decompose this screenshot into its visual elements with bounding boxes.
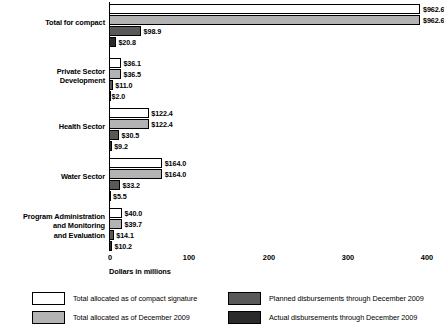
- group-label: Health Sector: [0, 122, 105, 131]
- x-tick-label: 300: [342, 253, 354, 262]
- bar-series-1: [109, 69, 121, 79]
- bar-value-label: $11.0: [115, 81, 132, 91]
- bar-series-2: [109, 80, 113, 90]
- group-label-line: Development: [60, 76, 105, 85]
- bar-value-label: $14.1: [116, 231, 134, 241]
- bar-value-label: $36.5: [124, 70, 142, 80]
- legend-swatch: [228, 311, 261, 324]
- bar-value-label: $40.0: [125, 209, 143, 219]
- bar-value-label: $122.4: [151, 120, 172, 130]
- bar-value-label: $962.6: [423, 16, 444, 26]
- x-tick-label: 0: [108, 253, 112, 262]
- legend-label: Total allocated as of compact signature: [73, 291, 197, 306]
- group-label: Total for compact: [0, 18, 105, 27]
- bar-value-label: $962.6: [423, 5, 444, 15]
- bar-value-label: $9.2: [114, 142, 128, 152]
- bar-series-1: [109, 15, 420, 25]
- bar-value-label: $30.5: [122, 131, 140, 141]
- legend-label: Actual disbursements through December 20…: [269, 310, 417, 325]
- bar-series-3: [109, 141, 112, 151]
- group-label: Water Sector: [0, 172, 105, 181]
- group-label: Program Administration and Monitoring an…: [0, 212, 105, 240]
- bar-series-2: [109, 130, 119, 140]
- legend-label: Total allocated as of December 2009: [73, 310, 190, 325]
- group-label: Private Sector Development: [0, 67, 105, 86]
- legend-swatch: [32, 292, 65, 305]
- chart-legend: Total allocated as of compact signature …: [0, 291, 438, 336]
- bar-series-2: [109, 26, 141, 36]
- bar-series-1: [109, 219, 122, 229]
- bar-series-1: [109, 169, 162, 179]
- bar-value-label: $164.0: [165, 159, 186, 169]
- x-tick-label: 400: [421, 253, 433, 262]
- bar-value-label: $20.8: [118, 38, 136, 48]
- bar-series-2: [109, 230, 114, 240]
- bar-value-label: $98.9: [144, 27, 162, 37]
- group-label-line: and Monitoring: [53, 221, 105, 230]
- group-label-line: and Evaluation: [54, 231, 105, 240]
- bar-value-label: $10.2: [115, 242, 133, 252]
- bar-series-0: [109, 158, 162, 168]
- x-tick-label: 100: [183, 253, 195, 262]
- legend-label: Planned disbursements through December 2…: [269, 291, 424, 306]
- x-tick-label: 200: [263, 253, 275, 262]
- plot-area: Total for compact $962.6 $962.6 $98.9 $: [0, 0, 438, 255]
- bar-value-label: $39.7: [125, 220, 143, 230]
- bar-series-0: [109, 208, 122, 218]
- bar-value-label: $2.0: [112, 92, 126, 102]
- bar-series-2: [109, 180, 120, 190]
- legend-swatch: [32, 311, 65, 324]
- bar-series-0: [109, 58, 121, 68]
- group-label-line: Water Sector: [61, 172, 105, 181]
- bar-series-0: [109, 4, 420, 14]
- legend-swatch: [228, 292, 261, 305]
- x-axis-title: Dollars in millions: [109, 267, 171, 276]
- bar-value-label: $122.4: [151, 109, 172, 119]
- x-axis: 0 100 200 300 400 Dollars in millions: [0, 249, 438, 250]
- bar-series-1: [109, 119, 149, 129]
- bar-value-label: $33.2: [122, 181, 140, 191]
- bar-value-label: $5.5: [113, 192, 127, 202]
- bar-value-label: $164.0: [165, 170, 186, 180]
- bar-series-0: [109, 108, 149, 118]
- bar-series-3: [109, 191, 111, 201]
- bar-value-label: $36.1: [123, 59, 141, 69]
- group-label-line: Private Sector: [57, 67, 105, 76]
- bar-series-3: [109, 37, 116, 47]
- group-label-line: Health Sector: [59, 122, 105, 131]
- group-label-line: Program Administration: [23, 212, 105, 221]
- group-label-line: Total for compact: [45, 18, 105, 27]
